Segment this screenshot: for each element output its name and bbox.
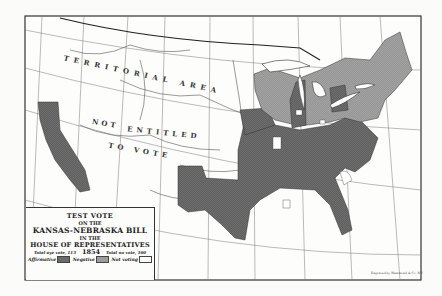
legend-title-1: TEST VOTE (26, 213, 154, 220)
engraver-credit: Engraved by Hammond & Co. N.Y. (371, 271, 423, 275)
legend-negative: Negative (73, 256, 109, 263)
affirmative-swatch (57, 256, 70, 263)
legend-affirmative: Affirmative (28, 256, 70, 263)
map-legend: TEST VOTE ON THE KANSAS-NEBRASKA BILL IN… (26, 207, 155, 280)
negative-swatch (96, 256, 109, 263)
legend-title-3: KANSAS-NEBRASKA BILL (26, 226, 154, 235)
total-no: Total no vote, 100 (106, 250, 146, 255)
total-aye: Total aye vote, 113 (34, 250, 76, 255)
legend-not-voting: Not voting (111, 256, 152, 263)
legend-year: 1854 (82, 250, 100, 255)
not-voting-swatch (139, 256, 152, 263)
